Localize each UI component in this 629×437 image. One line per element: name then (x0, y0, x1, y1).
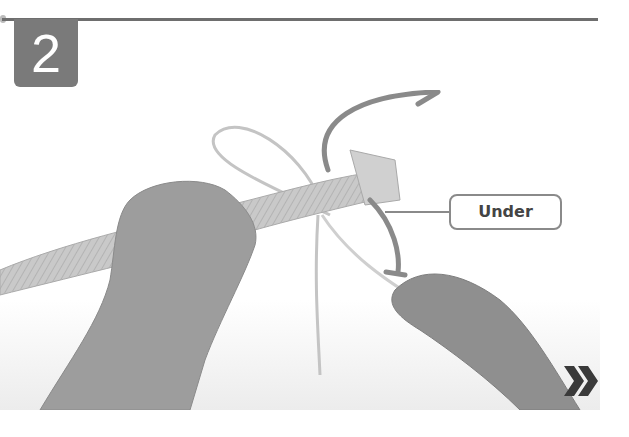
knot-illustration-photo (0, 90, 600, 410)
header-rule (2, 18, 598, 21)
callout-label-under: Under (449, 194, 562, 230)
curved-arrow-down (370, 200, 398, 272)
arrowhead-down (386, 272, 405, 275)
step-number-badge: 2 (14, 19, 78, 87)
double-chevron-right-icon[interactable] (560, 364, 600, 398)
